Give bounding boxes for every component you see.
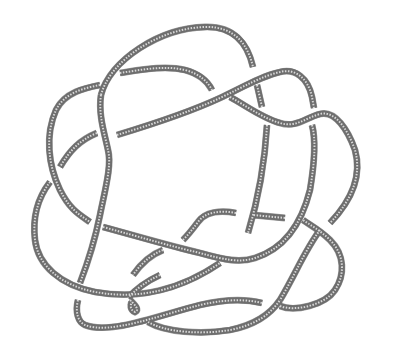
knot-strand: [230, 97, 357, 223]
knot-strand: [60, 133, 97, 167]
knot-strand: [101, 27, 253, 95]
knot-strand: [80, 95, 109, 283]
knot-strand: [77, 300, 262, 328]
knot-strand: [133, 250, 163, 275]
knot-strand: [103, 125, 314, 260]
knot-strand: [49, 85, 100, 222]
knot-diagram: [0, 0, 393, 363]
rope-body-layer: [34, 27, 357, 332]
